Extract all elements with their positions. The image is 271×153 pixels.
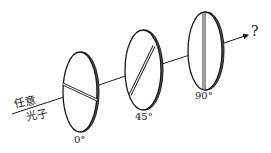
angle-label-45: 45° bbox=[135, 111, 153, 122]
angle-label-0: 0° bbox=[74, 134, 85, 145]
polarizer-diagram: 任意 光子 0° 45° 90° ? bbox=[0, 0, 271, 153]
output-question-mark: ? bbox=[251, 23, 259, 39]
input-label-line1: 任意 bbox=[13, 92, 38, 111]
angle-label-90: 90° bbox=[195, 90, 213, 101]
polarizer-45 bbox=[125, 30, 163, 110]
polarizer-0 bbox=[63, 52, 99, 132]
outgoing-beam bbox=[224, 35, 248, 43]
polarizer-90 bbox=[188, 12, 224, 90]
